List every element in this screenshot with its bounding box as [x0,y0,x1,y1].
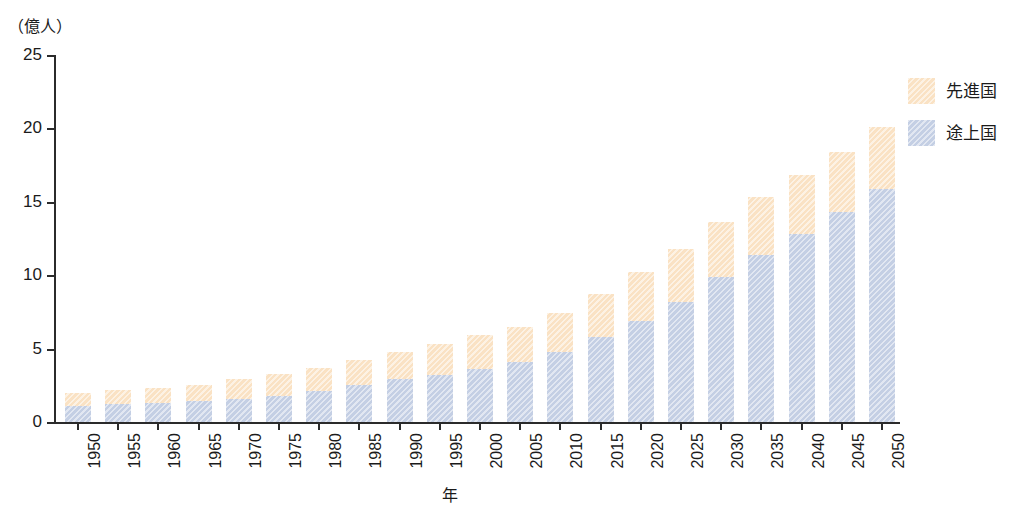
y-axis-unit-label: （億人） [8,18,72,36]
x-axis-tick [157,424,159,430]
legend-label: 途上国 [946,124,997,143]
x-axis-line [48,422,900,424]
bar-group [186,385,212,422]
bar-segment-developing [346,385,372,422]
x-axis-tick-label: 1995 [427,433,453,493]
plot-area: 0510152025 19501955196019651970197519801… [54,55,900,423]
x-axis-tick [77,424,79,430]
bar-segment-developed [306,368,332,391]
legend-item[interactable]: 先進国 [908,78,1013,104]
bar-group [467,335,493,422]
bar-segment-developing [668,302,694,422]
x-axis-title: 年 [0,487,900,505]
x-axis-tick-label: 2015 [588,433,614,493]
x-axis-tick [399,424,401,430]
x-axis-tick [680,424,682,430]
x-axis-tick-label: 2000 [467,433,493,493]
legend-swatch [908,78,935,104]
bar-segment-developed [507,327,533,362]
bar-group [628,272,654,422]
x-axis-tick-label: 1965 [186,433,212,493]
bar-segment-developing [186,401,212,422]
bar-segment-developed [668,249,694,302]
y-axis-tick-label: 5 [33,339,42,358]
bar-group [105,390,131,422]
bar-segment-developed [65,393,91,406]
bar-segment-developed [145,388,171,403]
y-axis-tick-label: 20 [23,118,42,137]
stacked-bar-chart: （億人） 0510152025 195019551960196519701975… [0,0,1015,524]
bar-segment-developed [427,344,453,375]
bar-group [226,379,252,422]
bar-group [708,222,734,422]
x-axis-tick [519,424,521,430]
bar-group [789,175,815,422]
x-axis-tick [600,424,602,430]
bar-group [427,344,453,422]
bar-segment-developing [427,375,453,422]
legend-item[interactable]: 途上国 [908,120,1013,146]
x-axis-tick [559,424,561,430]
bar-group [869,127,895,422]
bar-group [266,374,292,422]
bar-segment-developed [789,175,815,234]
x-axis-tick-label: 2010 [547,433,573,493]
bar-group [588,294,614,422]
y-axis-tick-label: 0 [33,412,42,431]
x-axis-tick [358,424,360,430]
bar-segment-developed [266,374,292,396]
bar-segment-developing [708,277,734,422]
bar-segment-developed [588,294,614,337]
y-axis-tick: 10 [47,275,54,277]
bar-group [547,313,573,422]
y-axis-tick-label: 15 [23,192,42,211]
bar-segment-developing [789,234,815,422]
bar-segment-developed [467,335,493,369]
bar-group [668,249,694,422]
x-axis-tick [479,424,481,430]
bar-group [748,197,774,422]
y-axis-tick: 25 [47,55,54,57]
bar-segment-developed [748,197,774,254]
y-axis-tick: 15 [47,202,54,204]
y-axis-tick: 5 [47,349,54,351]
x-axis-tick [318,424,320,430]
x-axis-tick-label: 2050 [869,433,895,493]
x-axis-tick [720,424,722,430]
x-axis-tick-label: 1950 [65,433,91,493]
x-axis-tick-label: 1985 [346,433,372,493]
bar-segment-developing [588,337,614,422]
x-axis-tick-label: 1955 [105,433,131,493]
x-axis-tick [841,424,843,430]
bar-segment-developing [145,403,171,422]
x-axis-tick [881,424,883,430]
bar-segment-developing [65,406,91,422]
bar-segment-developing [869,189,895,422]
bar-segment-developing [266,396,292,422]
bar-segment-developed [547,313,573,351]
x-axis-tick-label: 2025 [668,433,694,493]
x-axis-tick [760,424,762,430]
bar-segment-developing [829,212,855,422]
bar-segment-developed [346,360,372,385]
x-axis-tick [801,424,803,430]
legend-label: 先進国 [946,82,997,101]
bar-segment-developing [226,399,252,422]
bar-group [145,388,171,422]
bar-segment-developed [387,352,413,380]
y-axis-tick-label: 10 [23,265,42,284]
y-axis-tick: 20 [47,128,54,130]
y-axis-line [54,55,56,423]
x-axis-tick-label: 2030 [708,433,734,493]
chart-legend: 先進国途上国 [908,78,1013,162]
bar-segment-developing [306,391,332,422]
x-axis-tick [640,424,642,430]
legend-swatch [908,120,935,146]
x-axis-tick [198,424,200,430]
bar-segment-developed [105,390,131,405]
x-axis-tick-label: 1990 [387,433,413,493]
bar-segment-developing [628,321,654,422]
bar-segment-developing [467,369,493,422]
x-axis-tick [439,424,441,430]
x-axis-tick-label: 2005 [507,433,533,493]
